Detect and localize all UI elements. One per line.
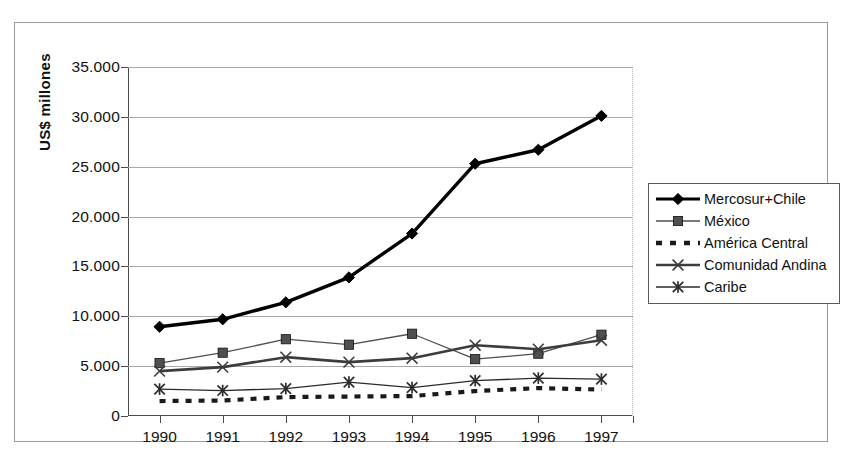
legend-label: Caribe xyxy=(702,279,747,295)
legend-label: México xyxy=(702,213,750,229)
x-marker-icon xyxy=(654,256,702,274)
legend-item-4[interactable]: Comunidad Andina xyxy=(654,254,834,276)
legend-item-5[interactable]: Caribe xyxy=(654,276,834,298)
figure-frame: US$ millones 05.00010.00015.00020.00025.… xyxy=(14,22,828,442)
legend-item-2[interactable]: México xyxy=(654,210,834,232)
legend-item-3[interactable]: América Central xyxy=(654,232,834,254)
square-marker-icon xyxy=(654,212,702,230)
asterisk-marker-icon xyxy=(654,278,702,296)
legend-label: América Central xyxy=(702,235,808,251)
diamond-marker-icon xyxy=(654,190,702,208)
legend-label: Comunidad Andina xyxy=(702,257,827,273)
series-1 xyxy=(154,110,607,332)
dotted-line-icon xyxy=(654,234,702,252)
chart-legend: Mercosur+ChileMéxicoAmérica CentralComun… xyxy=(648,183,840,304)
series-5 xyxy=(154,372,606,396)
legend-item-1[interactable]: Mercosur+Chile xyxy=(654,188,834,210)
legend-label: Mercosur+Chile xyxy=(702,191,806,207)
cropped-title-fragment xyxy=(0,0,845,12)
